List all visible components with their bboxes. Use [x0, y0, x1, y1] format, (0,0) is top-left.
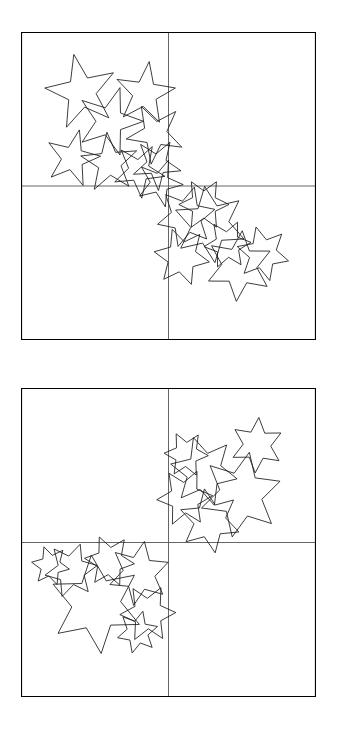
- panel-2: [21, 388, 316, 697]
- figure-stack: [0, 0, 338, 730]
- panel-1: [21, 32, 316, 340]
- star-marker: [49, 130, 101, 186]
- panel-1-star-group: [45, 54, 289, 301]
- panel-2-star-group: [32, 417, 281, 653]
- star-marker: [237, 227, 288, 281]
- panel-1-divider: [21, 32, 316, 340]
- panel-1-canvas: [21, 32, 316, 340]
- star-marker: [181, 489, 239, 553]
- star-marker: [201, 452, 280, 537]
- star-marker: [32, 547, 70, 585]
- star-marker: [85, 537, 135, 585]
- star-marker: [126, 106, 182, 164]
- star-marker: [115, 147, 165, 199]
- star-marker: [118, 611, 158, 653]
- star-marker: [154, 229, 209, 284]
- star-marker: [133, 142, 181, 190]
- star-marker: [164, 434, 208, 475]
- star-marker: [110, 541, 168, 605]
- star-marker: [45, 544, 97, 596]
- star-marker: [117, 62, 175, 123]
- star-marker: [204, 222, 251, 267]
- panel-2-divider: [21, 388, 316, 697]
- panel-2-canvas: [21, 388, 316, 697]
- star-marker: [157, 471, 213, 524]
- star-marker: [140, 160, 184, 207]
- star-marker: [45, 54, 114, 127]
- star-marker: [120, 588, 176, 640]
